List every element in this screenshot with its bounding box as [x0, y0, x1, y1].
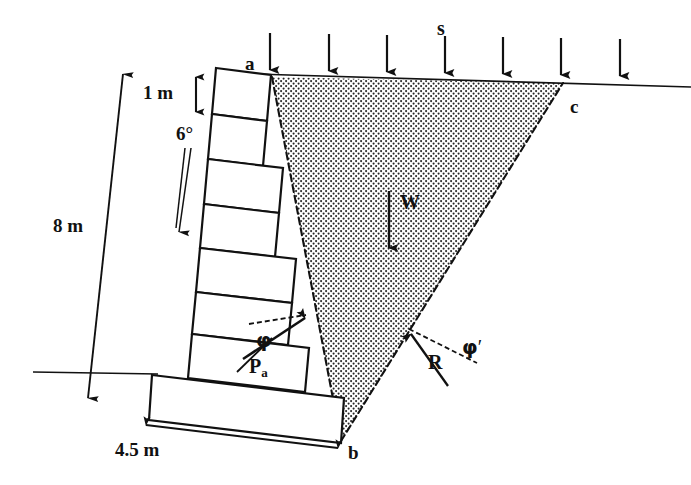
batter-angle-6deg — [176, 148, 191, 232]
label-point-a: a — [245, 54, 255, 73]
diagram-canvas — [0, 0, 691, 485]
label-wall-friction-angle: φ — [256, 330, 272, 350]
label-top-block-height: 1 m — [143, 83, 173, 102]
label-active-thrust-symbol: P — [249, 355, 261, 377]
label-soil-friction-angle: φ′ — [462, 337, 482, 357]
label-weight: W — [400, 192, 420, 212]
label-soil-friction-prime: ′ — [478, 336, 482, 358]
dimension-8m-line — [88, 74, 123, 398]
label-base-width: 4.5 m — [115, 440, 159, 459]
wall-block — [208, 114, 267, 166]
wall-block — [212, 68, 271, 121]
batter-line-vertical — [176, 148, 185, 228]
label-point-b: b — [348, 443, 359, 462]
wedge-fill — [272, 77, 563, 441]
dimension-8m — [88, 74, 123, 398]
failure-wedge — [272, 77, 563, 441]
label-active-thrust-subscript: a — [261, 365, 268, 380]
label-point-c: c — [570, 97, 578, 116]
label-surcharge: s — [437, 18, 445, 38]
label-soil-friction-symbol: φ — [462, 335, 478, 359]
label-wall-height: 8 m — [53, 216, 83, 235]
surcharge-arrow-group — [270, 33, 620, 76]
retaining-wall-figure: 8 m 1 m 6° 4.5 m a b c s W Pa R φ φ′ — [0, 0, 691, 485]
label-reaction: R — [428, 352, 442, 372]
ground-line-toe — [33, 372, 158, 374]
label-batter-angle: 6° — [176, 124, 193, 143]
label-active-thrust: Pa — [249, 356, 268, 379]
